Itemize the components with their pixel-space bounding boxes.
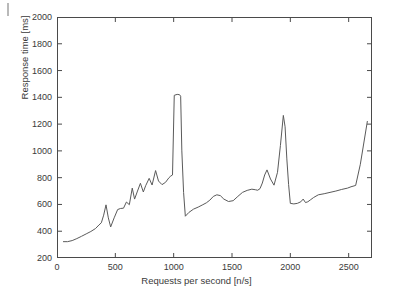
plot-area bbox=[57, 17, 372, 258]
y-tick-label: 1000 bbox=[18, 146, 52, 156]
x-axis-title: Requests per second [n/s] bbox=[0, 275, 393, 286]
x-tick-label: 500 bbox=[95, 262, 135, 272]
plot-border bbox=[58, 18, 372, 258]
x-tick-label: 2500 bbox=[329, 262, 369, 272]
y-tick-label: 800 bbox=[18, 173, 52, 183]
y-axis-title: Response time [ms] bbox=[19, 0, 30, 128]
x-tick-label: 2000 bbox=[270, 262, 310, 272]
x-tick-label: 1500 bbox=[212, 262, 252, 272]
plot-canvas bbox=[57, 17, 372, 258]
y-tick-label: 600 bbox=[18, 199, 52, 209]
page-margin-artifact bbox=[7, 3, 9, 16]
chart-figure: 200400600800100012001400160018002000 050… bbox=[0, 0, 393, 298]
y-tick-label: 400 bbox=[18, 226, 52, 236]
x-tick-label: 0 bbox=[37, 262, 77, 272]
x-tick-label: 1000 bbox=[154, 262, 194, 272]
